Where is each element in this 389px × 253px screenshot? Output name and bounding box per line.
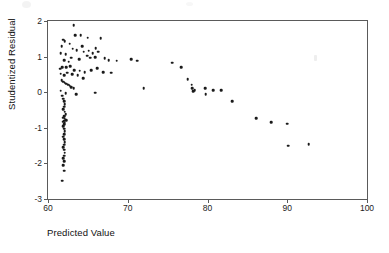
data-point [96,67,99,70]
data-point [81,45,84,48]
y-axis-tick [44,57,48,58]
data-point [89,56,92,59]
scan-artifact-icon [22,1,31,8]
y-axis-tick [44,128,48,129]
data-point [79,70,82,73]
data-point [180,66,183,69]
data-point [171,61,174,64]
y-axis-tick [44,92,48,93]
data-point [83,71,86,74]
data-point [68,42,71,45]
data-point [75,93,78,96]
data-point [103,57,106,60]
data-point [287,144,290,147]
x-axis-tick-label: 100 [360,203,374,213]
data-point [63,40,66,43]
y-axis-tick-label: -1 [34,123,42,133]
data-point [136,60,139,63]
data-point [270,121,273,124]
data-point [91,52,94,55]
data-point [255,117,258,120]
y-axis-tick [44,163,48,164]
data-point [73,69,76,72]
data-point [97,50,100,53]
y-axis-title: Studentized Residual [6,18,17,110]
data-point [72,87,75,90]
data-point [78,58,81,61]
data-point [66,71,69,74]
data-point [220,89,223,92]
data-point [231,100,234,103]
data-point [63,160,66,163]
data-point [60,45,63,48]
data-point [286,122,289,125]
y-axis-tick-label: 2 [37,16,42,26]
data-point [64,92,67,95]
data-point [86,55,89,58]
data-point [72,24,75,27]
data-point [63,170,66,173]
data-point [94,91,97,94]
x-axis-tick-label: 70 [123,203,132,213]
data-point [186,78,189,81]
data-point [70,56,73,59]
data-point [71,47,74,50]
data-point [205,93,208,96]
data-point [94,56,97,59]
data-point [82,77,85,80]
scan-artifact-icon [186,2,193,6]
data-point [65,66,68,69]
data-point [64,53,67,56]
data-point [83,50,86,53]
data-point [102,71,105,74]
data-point [212,89,215,92]
data-point [115,60,118,63]
y-axis-tick-label: -2 [34,158,42,168]
data-point [74,34,77,37]
data-point [69,65,72,68]
data-point [76,74,79,77]
y-axis-tick [44,21,48,22]
data-point [204,87,207,90]
data-point [61,180,64,183]
plot-frame: 210-1-2-3 60708090100 [47,20,368,200]
plot-data-area [48,21,367,199]
data-point [62,164,65,167]
scatter-plot-screenshot: 210-1-2-3 60708090100 Studentized Residu… [0,0,389,253]
y-axis-tick-label: 1 [37,52,42,62]
x-axis-tick-label: 90 [283,203,292,213]
data-point [59,52,62,55]
data-point [61,66,64,69]
data-point [67,60,70,63]
data-point [87,36,90,39]
x-axis-tick-label: 60 [43,203,52,213]
data-point [59,89,62,92]
data-point [75,49,78,52]
data-point [193,89,196,92]
data-point [90,69,93,72]
data-point [107,59,110,62]
data-point [71,73,74,76]
data-point [63,59,66,62]
data-point [87,50,90,53]
x-axis-tick-label: 80 [203,203,212,213]
data-point [190,83,193,86]
data-point [142,87,145,90]
data-point [63,74,66,77]
data-point [130,58,133,61]
data-point [95,47,98,50]
data-point [79,34,82,37]
data-point [110,71,113,74]
data-point [307,143,310,146]
x-axis-title: Predicted Value [47,227,115,238]
y-axis-tick-label: 0 [37,87,42,97]
data-point [99,37,102,40]
y-axis-tick-label: -3 [34,194,42,204]
